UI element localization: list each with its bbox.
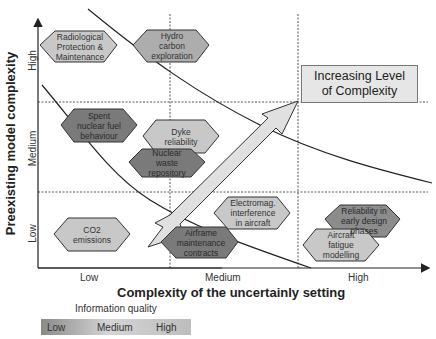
item-line: modelling xyxy=(323,250,359,260)
item-line: Protection & xyxy=(56,42,105,52)
item-line: nuclear fuel xyxy=(77,121,121,131)
item-line: emissions xyxy=(73,235,111,245)
item-line: Maintenance xyxy=(56,52,105,62)
legend-title: Information quality xyxy=(75,303,157,314)
item-co2: CO2emissions xyxy=(68,218,116,251)
information-quality-legend: Low Medium High xyxy=(41,319,191,335)
item-line: Spent xyxy=(77,111,121,121)
item-line: interference xyxy=(230,208,275,218)
legend-high: High xyxy=(156,322,177,333)
item-hydrocarbon: Hydro carbonexploration xyxy=(147,30,197,62)
item-line: contracts xyxy=(177,248,226,258)
item-spent-fuel: Spentnuclear fuelbehaviour xyxy=(74,109,124,142)
item-line: reliability xyxy=(164,137,197,147)
item-line: behaviour xyxy=(77,131,121,141)
complexity-callout: Increasing Level of Complexity xyxy=(301,65,418,103)
item-radiological: RadiologicalProtection &Maintenance xyxy=(55,31,105,62)
item-line: Dyke xyxy=(164,127,197,137)
item-line: Radiological xyxy=(56,32,105,42)
x-tick-high: High xyxy=(348,272,369,283)
y-axis-title: Preexisting model complexity xyxy=(3,44,18,244)
item-line: CO2 xyxy=(73,225,111,235)
item-line: exploration xyxy=(147,51,197,61)
callout-line1: Increasing Level xyxy=(302,69,417,84)
item-electromag: Electromag.interferencein aircraft xyxy=(228,197,278,229)
item-line: Airframe xyxy=(177,228,226,238)
y-tick-medium: Medium xyxy=(27,125,38,173)
y-tick-low: Low xyxy=(27,219,38,249)
item-line: waste xyxy=(148,158,185,168)
item-line: Reliability in xyxy=(341,206,387,216)
x-tick-low: Low xyxy=(80,272,98,283)
callout-line2: of Complexity xyxy=(302,84,417,99)
item-line: maintenance xyxy=(177,238,226,248)
x-tick-medium: Medium xyxy=(205,272,241,283)
item-line: in aircraft xyxy=(230,218,275,228)
item-line: Aircraft xyxy=(323,230,359,240)
y-tick-high: High xyxy=(27,46,38,76)
item-line: Electromag. xyxy=(230,198,275,208)
item-line: repository xyxy=(148,168,185,178)
legend-low: Low xyxy=(47,322,65,333)
item-airframe: Airframemaintenancecontracts xyxy=(176,227,226,258)
item-line: early design xyxy=(341,216,387,226)
item-nuclear-waste: Nuclearwasterepository xyxy=(142,149,192,177)
item-line: Hydro carbon xyxy=(147,31,197,51)
legend-medium: Medium xyxy=(97,322,133,333)
x-axis-title: Complexity of the uncertainly setting xyxy=(117,285,345,300)
item-aircraft-fatigue: Aircraftfatiguemodelling xyxy=(316,229,366,261)
item-line: Nuclear xyxy=(148,148,185,158)
item-line: fatigue xyxy=(323,240,359,250)
